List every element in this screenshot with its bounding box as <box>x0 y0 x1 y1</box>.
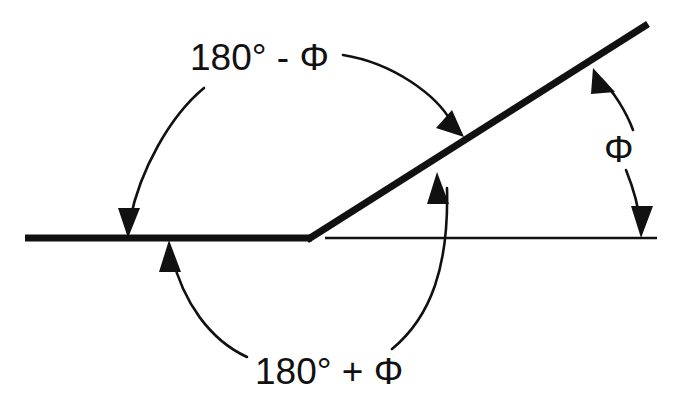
phi-arc-upper-arrowhead <box>591 68 615 94</box>
bottom-arc-left-branch <box>172 256 247 357</box>
thick-angled-ray <box>307 24 648 240</box>
top-arc-left-branch <box>130 88 204 220</box>
bottom-arc-left-arrowhead <box>159 240 181 272</box>
top-angle-arc <box>130 55 452 220</box>
top-arc-left-arrowhead <box>118 208 140 238</box>
angle-diagram-canvas: 180° - Φ 180° + Φ Φ <box>0 0 681 405</box>
right-angle-label: Φ <box>604 129 634 170</box>
angle-diagram: 180° - Φ 180° + Φ Φ <box>0 0 681 405</box>
bottom-angle-label: 180° + Φ <box>255 351 403 392</box>
top-arc-right-arrowhead <box>436 110 464 137</box>
phi-arc-lower-arrowhead <box>631 206 653 238</box>
top-arc-right-branch <box>343 55 452 123</box>
top-angle-label: 180° - Φ <box>190 37 329 78</box>
diagram-lines <box>25 24 657 240</box>
bottom-arc-right-branch <box>392 188 447 349</box>
bottom-angle-arc <box>172 188 447 357</box>
